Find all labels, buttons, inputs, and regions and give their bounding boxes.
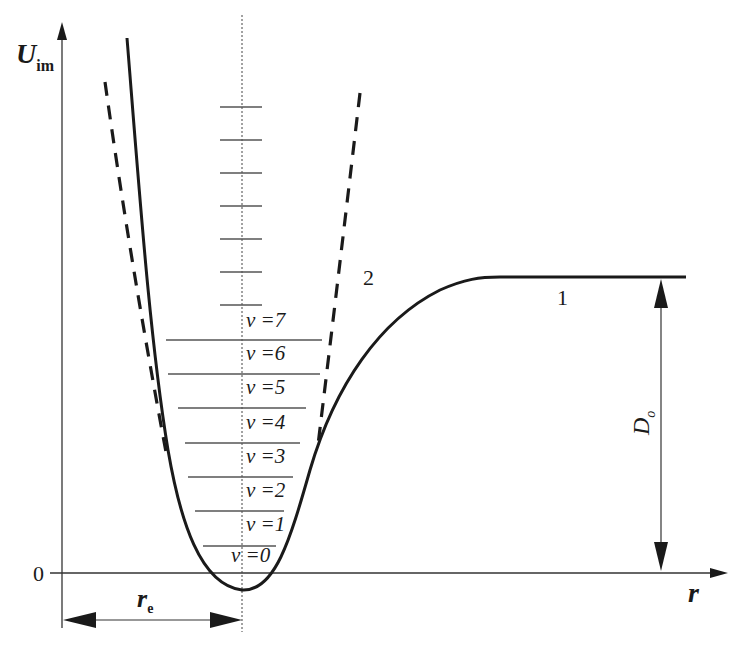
curve-1-anharmonic [127,38,686,590]
vibrational-level-label: v =4 [246,410,286,434]
harmonic-level-ticks [220,107,262,272]
vibrational-level-label: v =1 [246,512,285,536]
equilibrium-distance-dimension: re [63,584,242,628]
dissociation-arrow-up-icon [654,279,668,308]
diagram-canvas: Uim r 0 v =0v =1v =2v =3v =4v =5v =6v =7… [0,0,746,650]
vibrational-level-label: v =6 [246,341,286,365]
dissociation-energy-label: Do [628,411,658,436]
origin-label: 0 [33,561,44,586]
equilibrium-distance-label: re [137,584,153,616]
y-axis-label: Uim [16,38,55,74]
vibrational-level-label: v =7 [246,308,287,332]
x-axis-label: r [688,577,700,608]
curve-2-right-branch [318,93,360,445]
equilibrium-arrow-right-icon [210,612,242,628]
equilibrium-arrow-left-icon [63,612,96,628]
curve-1-label: 1 [557,285,568,310]
vibrational-level-label: v =2 [246,478,286,502]
y-axis-arrow-icon [57,22,67,40]
dissociation-arrow-down-icon [654,542,668,571]
potential-energy-diagram: Uim r 0 v =0v =1v =2v =3v =4v =5v =6v =7… [0,0,746,650]
vibrational-levels: v =0v =1v =2v =3v =4v =5v =6v =7 [166,305,322,567]
vibrational-level-label: v =3 [246,444,285,468]
dissociation-energy-dimension: Do [628,279,668,571]
vibrational-level-label: v =0 [231,543,271,567]
vibrational-level-label: v =5 [246,375,285,399]
curve-2-harmonic [105,82,360,452]
curve-2-label: 2 [363,265,374,290]
x-axis-arrow-icon [710,568,728,578]
